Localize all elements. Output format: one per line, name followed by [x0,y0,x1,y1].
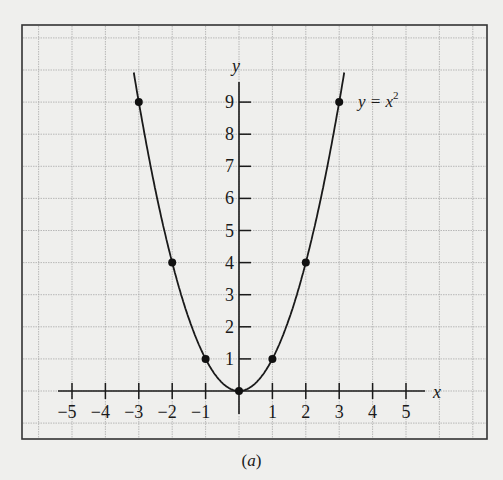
svg-text:7: 7 [225,156,234,176]
svg-text:9: 9 [225,92,234,112]
tick-labels: −5−4−3−2−112345123456789 [57,92,410,422]
y-axis-label: y [230,56,240,76]
svg-text:3: 3 [225,285,234,305]
svg-text:3: 3 [335,402,344,422]
svg-text:4: 4 [225,253,234,273]
svg-text:1: 1 [225,349,234,369]
svg-text:2: 2 [225,317,234,337]
svg-text:5: 5 [225,221,234,241]
frame-border [22,25,487,439]
axes [58,82,425,414]
svg-text:−1: −1 [191,402,210,422]
x-axis-label: x [432,382,441,402]
svg-text:8: 8 [225,124,234,144]
grid-lines [23,26,486,438]
svg-text:−2: −2 [158,402,177,422]
svg-text:6: 6 [225,188,234,208]
svg-text:−5: −5 [57,402,76,422]
svg-text:5: 5 [402,402,411,422]
curve-label: y = x2 [356,89,399,111]
svg-text:2: 2 [301,402,310,422]
svg-text:1: 1 [268,402,277,422]
svg-text:−3: −3 [124,402,143,422]
svg-text:4: 4 [368,402,377,422]
svg-text:−4: −4 [91,402,110,422]
figure-caption: (a) [0,451,503,471]
parabola-chart: −5−4−3−2−112345123456789 x y y = x2 [0,0,503,480]
